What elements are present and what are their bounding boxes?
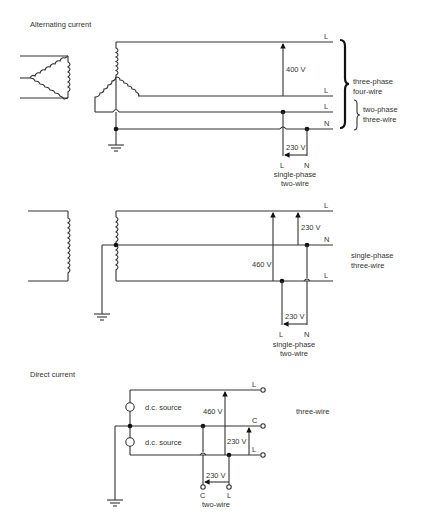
dc-voltage-460v: 460 V [203, 407, 223, 416]
voltage-230v-half: 230 V [301, 223, 321, 232]
brace-three-phase [340, 40, 349, 128]
dc-source-label-2: d.c. source [145, 438, 182, 447]
dc-tap-label-C: C [200, 491, 206, 500]
terminal-C [261, 424, 265, 428]
delta-primary-winding [20, 56, 70, 99]
group-label-two-phase-1: two-phase [363, 105, 398, 114]
earth-symbol-3 [107, 500, 123, 506]
tap-label-N: N [304, 161, 309, 170]
dc-source-symbol-2 [126, 438, 134, 446]
dc-voltage-230v: 230 V [227, 437, 247, 446]
terminal-tap-C [201, 485, 205, 489]
sp-tap-caption-1: single-phase [273, 340, 316, 349]
dc-line-label-L1: L [252, 380, 256, 389]
terminal-L-bottom [261, 453, 265, 457]
sp-line-label-L1: L [324, 201, 328, 210]
dc-group-label: three-wire [296, 407, 329, 416]
dc-voltage-230v-tap: 230 V [206, 471, 226, 480]
sp-line-label-L2: L [324, 271, 328, 280]
terminal-L-top [261, 388, 265, 392]
line-label-N: N [324, 119, 329, 128]
sp-tap-label-L: L [279, 330, 283, 339]
sp-group-label-2: three-wire [351, 261, 384, 270]
voltage-230v-tap: 230 V [286, 143, 306, 152]
terminal-tap-L [227, 485, 231, 489]
single-phase-primary-winding [28, 211, 70, 281]
ac-heading: Alternating current [30, 20, 92, 29]
dc-tap-caption: two-wire [202, 500, 230, 509]
dc-tap-label-L: L [227, 491, 231, 500]
dc-line-label-L2: L [252, 445, 256, 454]
dc-source-symbol-1 [126, 403, 134, 411]
dc-line-label-C: C [252, 416, 258, 425]
tap-label-L: L [280, 161, 284, 170]
star-secondary-winding [95, 42, 333, 145]
earth-symbol [108, 145, 124, 151]
sp-line-label-N: N [324, 235, 329, 244]
group-label-four-wire-2: four-wire [353, 87, 382, 96]
line-label-L2: L [324, 86, 328, 95]
line-label-L1: L [324, 32, 328, 41]
group-label-two-phase-2: three-wire [363, 115, 396, 124]
voltage-400v: 400 V [286, 65, 306, 74]
voltage-230v-sp-tap: 230 V [285, 312, 305, 321]
voltage-460v: 460 V [252, 260, 272, 269]
sp-tap-caption-2: two-wire [280, 349, 308, 358]
brace-two-phase [354, 100, 360, 130]
sp-tap-label-N: N [304, 330, 309, 339]
line-label-L3: L [324, 102, 328, 111]
sp-group-label-1: single-phase [351, 251, 394, 260]
group-label-four-wire-1: three-phase [353, 77, 393, 86]
dc-heading: Direct current [30, 370, 76, 379]
dc-source-label-1: d.c. source [145, 403, 182, 412]
earth-symbol-2 [94, 314, 110, 320]
tap-caption-2: two-wire [281, 179, 309, 188]
tap-caption-1: single-phase [274, 170, 317, 179]
supply-systems-diagram: Alternating current [0, 0, 421, 528]
